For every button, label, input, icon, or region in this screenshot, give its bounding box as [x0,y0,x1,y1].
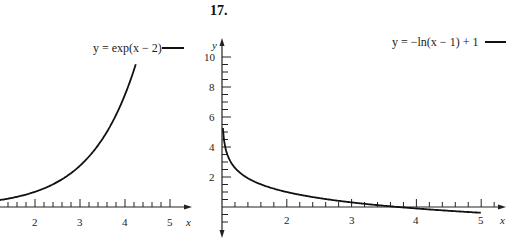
left-xtick-5: 5 [167,216,173,228]
right-ytick-8: 8 [209,81,215,93]
right-y-axis-arrow-up-icon [220,38,225,46]
right-ytick-10: 10 [204,51,216,63]
right-xtick-3: 3 [349,214,355,226]
right-ytick-2: 2 [209,171,215,183]
right-xtick-5: 5 [478,214,484,226]
right-legend-label: y = −ln(x − 1) + 1 [392,35,478,49]
left-x-label: x [185,216,191,228]
right-xtick-4: 4 [413,214,419,226]
figure: 17. y = exp(x − 2) 2 3 4 5 x y = −ln(x −… [0,0,506,244]
right-y-label: y [211,39,217,51]
right-ytick-6: 6 [209,111,215,123]
right-x-label: x [499,214,505,226]
left-curve [0,64,136,201]
left-xtick-2: 2 [32,216,38,228]
right-xtick-2: 2 [284,214,290,226]
right-y-axis-arrow-down-icon [220,230,225,238]
left-chart: y = exp(x − 2) 2 3 4 5 x [0,41,192,228]
right-x-axis-arrow-icon [498,205,506,210]
left-x-axis-arrow-icon [184,205,192,210]
left-xtick-4: 4 [122,216,128,228]
left-xtick-3: 3 [77,216,83,228]
right-ytick-4: 4 [209,141,215,153]
left-legend-label: y = exp(x − 2) [93,41,162,55]
problem-number: 17. [210,3,228,18]
right-chart: y = −ln(x − 1) + 1 y 10 8 6 4 2 2 3 4 5 … [204,35,506,238]
